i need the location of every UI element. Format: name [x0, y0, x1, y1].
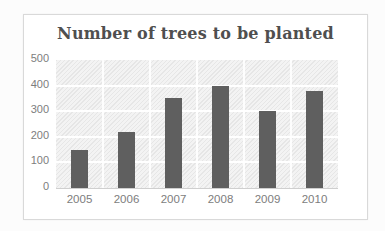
bar [118, 132, 135, 188]
x-tick-label: 2009 [255, 192, 281, 206]
category-separator-line [196, 60, 198, 188]
y-tick-label: 100 [31, 155, 49, 166]
bar [306, 91, 323, 188]
bar [259, 111, 276, 188]
category-separator-line [102, 60, 104, 188]
category-separator-line [290, 60, 292, 188]
x-tick-label: 2007 [161, 192, 187, 206]
x-axis: 200520062007200820092010 [56, 192, 338, 208]
y-tick-label: 200 [31, 129, 49, 140]
y-tick-label: 500 [31, 53, 49, 64]
gridline [56, 110, 338, 112]
x-tick-label: 2006 [114, 192, 140, 206]
chart-title: Number of trees to be planted [24, 24, 367, 43]
x-tick-label: 2010 [302, 192, 328, 206]
x-tick-label: 2008 [208, 192, 234, 206]
bar [71, 150, 88, 188]
gridline [56, 85, 338, 87]
gridline [56, 161, 338, 163]
x-tick-label: 2005 [67, 192, 93, 206]
category-separator-line [149, 60, 151, 188]
plot-area [56, 58, 338, 189]
screenshot-canvas: Number of trees to be planted 0100200300… [0, 0, 385, 231]
bar [165, 98, 182, 188]
bar [212, 86, 229, 188]
y-tick-label: 400 [31, 78, 49, 89]
y-tick-label: 0 [43, 181, 49, 192]
y-axis: 0100200300400500 [24, 58, 51, 186]
gridline [56, 136, 338, 138]
bar-chart: Number of trees to be planted 0100200300… [23, 14, 368, 220]
y-tick-label: 300 [31, 104, 49, 115]
category-separator-line [243, 60, 245, 188]
